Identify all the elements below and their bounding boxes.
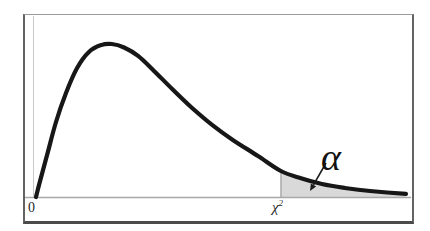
density-curve — [36, 44, 406, 197]
origin-label: 0 — [28, 201, 35, 215]
chi-exponent: 2 — [279, 198, 284, 208]
chi-symbol: χ — [272, 199, 279, 215]
alpha-label: α — [321, 138, 341, 176]
plot-canvas — [0, 0, 430, 231]
distribution-figure: 0 χ2 α — [0, 0, 430, 231]
critical-value-label: χ2 — [272, 200, 283, 215]
